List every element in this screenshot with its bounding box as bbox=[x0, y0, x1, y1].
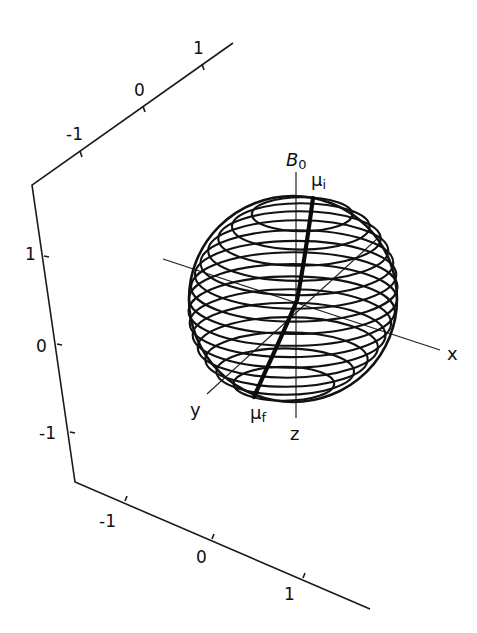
bottom-tick-label: -1 bbox=[99, 511, 116, 531]
tick-mark bbox=[80, 151, 82, 157]
b0-symbol: B bbox=[286, 149, 298, 170]
mu-final-label: μf bbox=[250, 402, 266, 425]
tick-mark bbox=[125, 496, 127, 501]
tick-mark bbox=[143, 106, 145, 112]
left-tick-label: 0 bbox=[36, 336, 47, 356]
mu-initial-subscript: i bbox=[322, 177, 326, 192]
mu-final-subscript: f bbox=[261, 410, 266, 425]
b0-label: B0 bbox=[286, 149, 307, 172]
bottom-tick-label: 1 bbox=[284, 584, 295, 604]
mu-initial-symbol: μ bbox=[311, 169, 323, 190]
b0-subscript: 0 bbox=[298, 157, 306, 172]
z-axis-label: z bbox=[290, 423, 299, 444]
top-tick-label: 1 bbox=[193, 38, 204, 58]
tick-mark bbox=[44, 256, 49, 257]
top-tick-label: 0 bbox=[134, 80, 145, 100]
sphere-diagram: -1 0 1 1 0 -1 -1 0 1 x y z B0 μi bbox=[0, 0, 477, 633]
top-tick-label: -1 bbox=[66, 124, 83, 144]
left-tick-label: -1 bbox=[39, 423, 56, 443]
tick-mark bbox=[70, 432, 75, 433]
x-axis-label: x bbox=[447, 343, 458, 364]
left-tick-label: 1 bbox=[25, 244, 36, 264]
tick-mark bbox=[202, 64, 204, 70]
bottom-tick-label: 0 bbox=[196, 547, 207, 567]
y-axis-label: y bbox=[190, 399, 201, 420]
mu-initial-label: μi bbox=[311, 169, 326, 192]
sphere-wireframe bbox=[189, 196, 398, 402]
tick-mark bbox=[57, 344, 62, 345]
mu-final-symbol: μ bbox=[250, 402, 262, 423]
tick-mark bbox=[212, 534, 214, 539]
tick-mark bbox=[303, 573, 305, 578]
